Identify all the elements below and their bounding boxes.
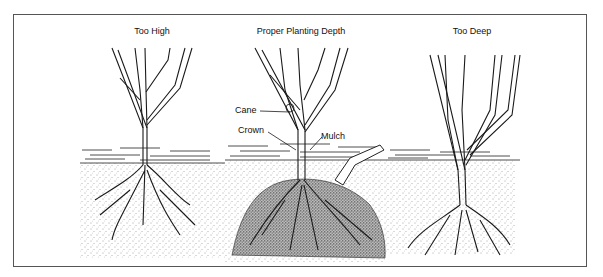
panel-title-proper-depth: Proper Planting Depth	[221, 26, 381, 36]
label-leaders	[260, 104, 322, 150]
label-cane: Cane	[235, 105, 257, 115]
label-crown: Crown	[238, 125, 264, 135]
panel-title-too-deep: Too Deep	[392, 26, 552, 36]
label-mulch: Mulch	[321, 131, 345, 141]
panel-title-too-high: Too High	[72, 26, 232, 36]
planting-depth-illustration	[0, 0, 603, 277]
